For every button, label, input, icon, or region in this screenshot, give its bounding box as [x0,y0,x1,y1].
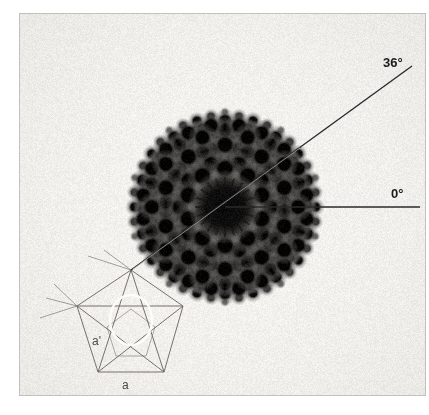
angle-36-label: 36° [383,55,403,70]
vector-a-prime-label: a' [92,334,101,348]
diffraction-plate-canvas [0,0,429,415]
diffraction-figure: 36° 0° a' a [0,0,429,415]
vector-a-label: a [122,378,129,392]
angle-0-label: 0° [391,186,403,201]
